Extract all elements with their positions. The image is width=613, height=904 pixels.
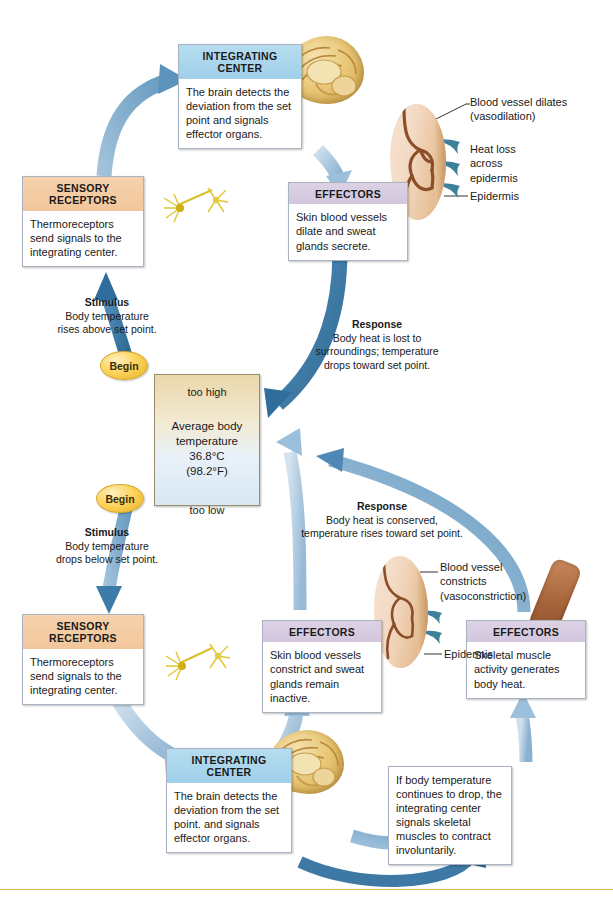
effectors-muscle-header: EFFECTORS [467, 621, 585, 642]
shivering-note-text: If body temperature continues to drop, t… [389, 767, 511, 864]
effectors-body-upper: Skin blood vessels dilate and sweat glan… [289, 204, 407, 259]
sensory-receptors-header-line1: SENSORY [56, 182, 109, 194]
response-upper-title: Response [352, 318, 402, 330]
response-upper-line2: surroundings; temperature [315, 345, 438, 357]
integrating-center-box-lower[interactable]: INTEGRATING CENTER The brain detects the… [166, 748, 292, 853]
response-lower-line2: temperature rises toward set point. [301, 527, 463, 539]
stimulus-lower-title: Stimulus [85, 526, 129, 538]
sensory-receptors-box-upper[interactable]: SENSORY RECEPTORS Thermoreceptors send s… [22, 176, 144, 267]
effectors-box-upper[interactable]: EFFECTORS Skin blood vessels dilate and … [288, 182, 408, 261]
setpoint-line1: Average body [172, 420, 243, 432]
sensory-receptors-body-lower: Thermoreceptors send signals to the inte… [23, 649, 143, 704]
setpoint-average-block: Average body temperature 36.8°C (98.2°F) [155, 398, 259, 479]
integrating-center-header-upper: INTEGRATING CENTER [179, 45, 301, 79]
label-heat-loss: Heat loss across epidermis [470, 142, 580, 185]
setpoint-too-low: too low [155, 479, 259, 516]
begin-oval-lower[interactable]: Begin [96, 484, 144, 513]
stimulus-lower-line1: Body temperature [65, 540, 148, 552]
integrating-center-header-lower: INTEGRATING CENTER [167, 749, 291, 783]
integrating-center-header-lower-line2: CENTER [207, 766, 252, 778]
response-caption-upper: Response Body heat is lost to surroundin… [282, 318, 472, 373]
stimulus-upper-title: Stimulus [85, 296, 129, 308]
vasodilation-line2: (vasodilation) [470, 110, 535, 122]
integrating-center-body-upper: The brain detects the deviation from the… [179, 79, 301, 148]
heat-loss-line2: across [470, 157, 502, 169]
response-upper-line3: drops toward set point. [324, 359, 430, 371]
vasoconstriction-line2: constricts [440, 575, 486, 587]
sensory-receptors-box-lower[interactable]: SENSORY RECEPTORS Thermoreceptors send s… [22, 614, 144, 705]
setpoint-line2: temperature [176, 435, 238, 447]
setpoint-fahrenheit: (98.2°F) [186, 465, 228, 477]
label-blood-vessel-constricts: Blood vessel constricts (vasoconstrictio… [440, 560, 560, 603]
effectors-skin-body: Skin blood vessels constrict and sweat g… [263, 642, 381, 711]
begin-oval-upper[interactable]: Begin [100, 351, 148, 380]
stimulus-caption-lower: Stimulus Body temperature drops below se… [22, 526, 192, 567]
response-lower-line1: Body heat is conserved, [326, 514, 438, 526]
vasoconstriction-line3: (vasoconstriction) [440, 590, 526, 602]
sensory-receptors-header-upper: SENSORY RECEPTORS [23, 177, 143, 211]
stimulus-caption-upper: Stimulus Body temperature rises above se… [22, 296, 192, 337]
stimulus-lower-line2: drops below set point. [56, 553, 158, 565]
response-lower-title: Response [357, 500, 407, 512]
integrating-center-header-line1: INTEGRATING [203, 50, 278, 62]
skin-illustration-vasoconstriction [374, 556, 428, 668]
footer-rule [0, 889, 613, 890]
integrating-center-box-upper[interactable]: INTEGRATING CENTER The brain detects the… [178, 44, 302, 149]
response-upper-line1: Body heat is lost to [333, 332, 422, 344]
response-caption-lower: Response Body heat is conserved, tempera… [268, 500, 496, 541]
arrow-sensory-to-integrating-upper [104, 64, 188, 176]
label-epidermis-upper: Epidermis [470, 189, 519, 203]
vasodilation-line1: Blood vessel dilates [470, 96, 567, 108]
shivering-note-box[interactable]: If body temperature continues to drop, t… [388, 766, 512, 865]
label-epidermis-lower: Epidermis [444, 647, 493, 661]
setpoint-box: too high Average body temperature 36.8°C… [154, 374, 260, 506]
effectors-box-skin-lower[interactable]: EFFECTORS Skin blood vessels constrict a… [262, 620, 382, 713]
label-blood-vessel-dilates: Blood vessel dilates (vasodilation) [470, 95, 610, 124]
vasoconstriction-line1: Blood vessel [440, 561, 502, 573]
sensory-receptors-header-line2: RECEPTORS [49, 194, 117, 206]
setpoint-celsius: 36.8°C [189, 450, 224, 462]
setpoint-too-high: too high [155, 375, 259, 398]
stimulus-upper-line1: Body temperature [65, 310, 148, 322]
integrating-center-header-line2: CENTER [218, 62, 263, 74]
neuron-icon-lower [162, 644, 232, 688]
heat-loss-line3: epidermis [470, 172, 518, 184]
sensory-receptors-header-lower-line2: RECEPTORS [49, 632, 117, 644]
neuron-icon-upper [160, 186, 230, 230]
effectors-skin-header: EFFECTORS [263, 621, 381, 642]
integrating-center-body-lower: The brain detects the deviation from the… [167, 783, 291, 852]
stimulus-upper-line2: rises above set point. [57, 323, 156, 335]
integrating-center-header-lower-line1: INTEGRATING [192, 754, 267, 766]
thermoregulation-diagram: INTEGRATING CENTER The brain detects the… [0, 0, 613, 904]
arrow-note-to-effectors-muscle [510, 692, 536, 762]
sensory-receptors-header-lower: SENSORY RECEPTORS [23, 615, 143, 649]
heat-loss-line1: Heat loss [470, 143, 516, 155]
sensory-receptors-header-lower-line1: SENSORY [56, 620, 109, 632]
sensory-receptors-body-upper: Thermoreceptors send signals to the inte… [23, 211, 143, 266]
effectors-header-upper: EFFECTORS [289, 183, 407, 204]
